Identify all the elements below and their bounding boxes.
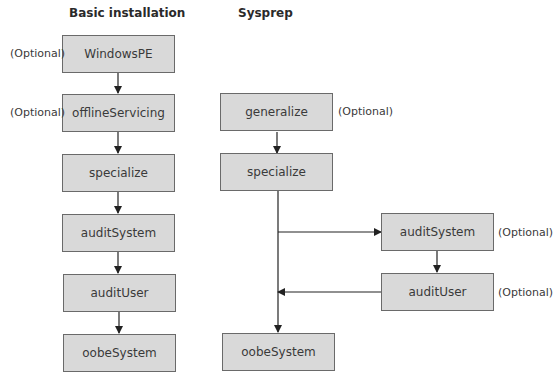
basic-step-specialize: specialize xyxy=(62,154,175,192)
basic-step-offlineservicing: offlineServicing xyxy=(62,94,175,132)
sysprep-branch-audituser: auditUser xyxy=(381,273,494,311)
optional-label-offlineservicing: (Optional) xyxy=(10,106,65,119)
sysprep-step-generalize: generalize xyxy=(220,93,333,131)
basic-step-auditsystem: auditSystem xyxy=(62,214,175,252)
sysprep-step-specialize: specialize xyxy=(220,153,333,191)
sysprep-step-oobesystem: oobeSystem xyxy=(222,333,335,371)
basic-step-audituser: auditUser xyxy=(63,274,176,312)
basic-step-windowspe: WindowsPE xyxy=(62,35,175,73)
basic-step-oobesystem: oobeSystem xyxy=(63,334,176,372)
optional-label-generalize: (Optional) xyxy=(338,105,393,118)
optional-label-windowspe: (Optional) xyxy=(10,47,65,60)
sysprep-branch-auditsystem: auditSystem xyxy=(381,213,494,251)
optional-label-branch-auditsystem: (Optional) xyxy=(498,226,553,239)
optional-label-branch-audituser: (Optional) xyxy=(498,286,553,299)
